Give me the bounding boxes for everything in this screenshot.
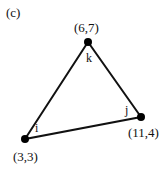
- node-i-coord-label: (3,3): [13, 150, 38, 163]
- node-k-name: k: [86, 52, 92, 64]
- node-j-name: j: [125, 104, 128, 116]
- panel-label: (c): [6, 6, 20, 19]
- node-i-name: i: [35, 122, 38, 134]
- node-j-coord-label: (11,4): [128, 126, 159, 139]
- node-k: [84, 38, 92, 46]
- triangle-edges: [25, 42, 141, 139]
- node-k-coord-label: (6,7): [74, 21, 99, 34]
- node-j: [137, 113, 145, 121]
- node-i: [21, 135, 29, 143]
